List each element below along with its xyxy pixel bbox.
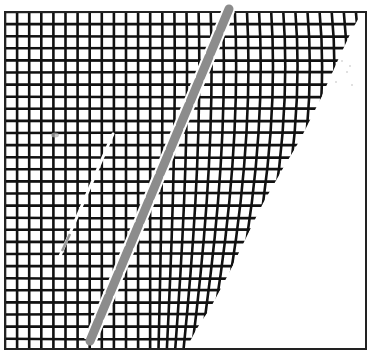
speckle	[346, 71, 348, 73]
grid-horizontal-line	[5, 193, 279, 194]
speckle	[335, 81, 337, 83]
grid-horizontal-line	[5, 36, 359, 37]
speckle	[349, 65, 351, 67]
deformed-grid-diagram	[0, 0, 372, 360]
grid-horizontal-line	[5, 314, 216, 315]
speckle	[341, 60, 343, 62]
speckle	[351, 84, 353, 86]
faint-smudge-mark	[51, 133, 59, 138]
diagram-canvas: Square wire-mesh grid inside a rectangul…	[0, 0, 372, 360]
grid-horizontal-line	[5, 339, 201, 340]
smudge-mark	[51, 133, 59, 138]
grid-horizontal-line	[5, 132, 314, 133]
